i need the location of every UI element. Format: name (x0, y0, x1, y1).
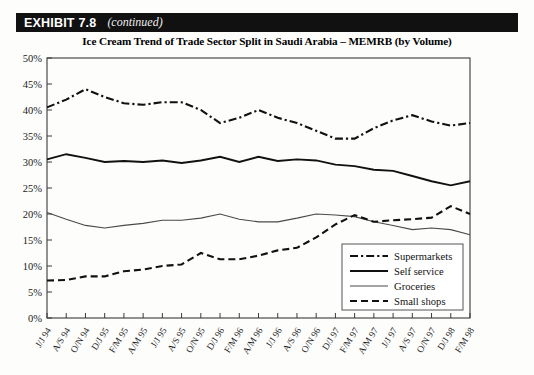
chart-title: Ice Cream Trend of Trade Sector Split in… (0, 35, 534, 47)
y-tick-label: 20% (23, 209, 43, 220)
y-tick-label: 10% (23, 261, 43, 272)
y-tick-label: 35% (23, 131, 43, 142)
y-tick-label: 0% (28, 313, 42, 324)
x-axis-tick-labels: J/J 94A/S 94O/N 94D/J 95F/M 95A/M 95J/J … (33, 325, 476, 355)
y-tick-label: 5% (28, 287, 42, 298)
y-tick-label: 30% (23, 157, 43, 168)
y-axis-tick-labels: 0%5%10%15%20%25%30%35%40%45%50% (23, 53, 43, 324)
legend-label-self-service: Self service (394, 266, 444, 277)
y-axis-ticks (47, 58, 52, 318)
legend-label-groceries: Groceries (394, 281, 435, 292)
x-tick-label: O/N 94 (69, 325, 92, 354)
line-chart: 0%5%10%15%20%25%30%35%40%45%50% J/J 94A/… (0, 50, 534, 375)
series-line-supermarkets (47, 89, 470, 138)
chart-legend: SupermarketsSelf serviceGroceriesSmall s… (342, 244, 463, 310)
y-tick-label: 15% (23, 235, 43, 246)
y-tick-label: 40% (23, 105, 43, 116)
x-tick-label: A/M 96 (241, 325, 265, 355)
x-tick-label: A/M 97 (356, 325, 380, 355)
x-tick-label: O/N 97 (415, 325, 438, 354)
series-line-groceries (47, 212, 470, 234)
x-tick-label: A/M 95 (125, 325, 149, 355)
x-axis-ticks (47, 313, 470, 318)
exhibit-page: EXHIBIT 7.8 (continued) Ice Cream Trend … (0, 0, 534, 375)
chart-figure: 0%5%10%15%20%25%30%35%40%45%50% J/J 94A/… (0, 50, 534, 375)
exhibit-number-label: EXHIBIT 7.8 (24, 16, 96, 30)
legend-label-supermarkets: Supermarkets (394, 251, 452, 262)
x-tick-label: F/M 98 (453, 325, 476, 354)
x-tick-label: O/N 95 (184, 325, 207, 354)
y-tick-label: 25% (23, 183, 43, 194)
x-tick-label: O/N 96 (299, 325, 322, 354)
y-tick-label: 50% (23, 53, 43, 64)
legend-label-small-shops: Small shops (394, 296, 446, 307)
exhibit-continued-label: (continued) (107, 15, 162, 30)
y-tick-label: 45% (23, 79, 43, 90)
series-line-self-service (47, 154, 470, 185)
exhibit-header-bar: EXHIBIT 7.8 (continued) (16, 13, 518, 32)
